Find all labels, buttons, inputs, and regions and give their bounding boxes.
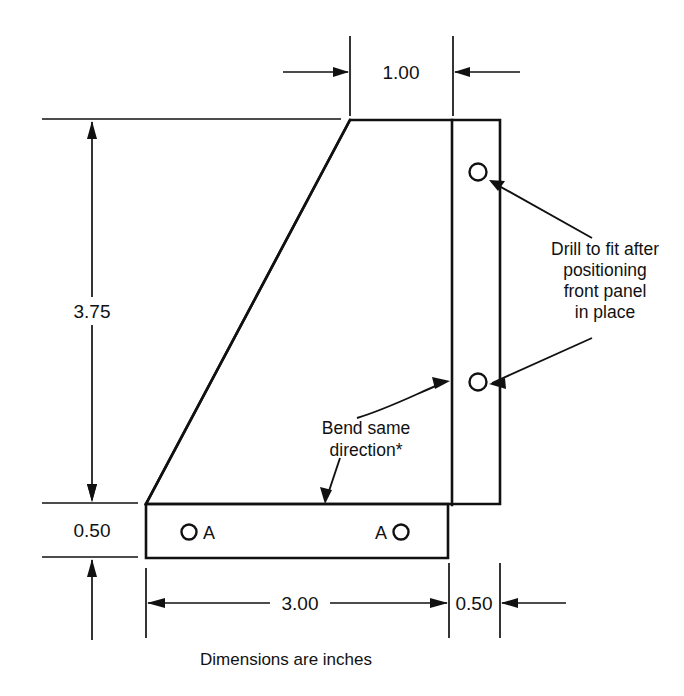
dimension-base-width: 3.00: [146, 563, 500, 638]
arrow-head-base-right: [430, 598, 448, 608]
right-panel-hole-lower: [470, 374, 487, 391]
arrow-head-right-flange: [501, 598, 518, 608]
bracket-drawing-svg: A A 1.00 3.75: [0, 0, 684, 696]
drill-note-line-4: in place: [575, 302, 635, 322]
base-hole-left: [182, 525, 197, 540]
arrow-head-top-right: [454, 67, 470, 77]
drawing-caption: Dimensions are inches: [200, 650, 372, 669]
bend-note-line-2: direction*: [330, 440, 403, 460]
arrow-head-flange-top: [87, 484, 97, 502]
arrow-head-top-left: [333, 67, 349, 77]
dimension-left-height: 3.75: [42, 119, 341, 503]
part-body-outline: [146, 120, 500, 504]
arrow-head-flange-bottom: [87, 559, 97, 577]
arrow-head-base-left: [147, 598, 165, 608]
base-hole-right-label: A: [375, 523, 387, 543]
drill-note-leader-upper: [492, 182, 592, 238]
bend-note-leader-curved: [357, 383, 443, 418]
arrow-head-drill-upper: [489, 180, 505, 191]
drill-note-leader-lower: [492, 338, 592, 383]
dimension-top-width: 1.00: [283, 36, 520, 116]
right-panel-hole-upper: [470, 164, 487, 181]
base-hole-left-label: A: [203, 523, 215, 543]
dim-label-base-width: 3.00: [282, 593, 319, 614]
arrow-head-height-top: [87, 121, 97, 139]
drill-note-line-1: Drill to fit after: [551, 239, 659, 259]
drill-note-line-2: positioning: [563, 260, 647, 280]
dim-label-top-width: 1.00: [383, 62, 420, 83]
dim-label-right-flange-width: 0.50: [456, 593, 493, 614]
technical-drawing-canvas: A A 1.00 3.75: [0, 0, 684, 696]
arrow-head-bend-curved: [432, 377, 450, 389]
dimension-right-flange-width: 0.50: [456, 593, 566, 614]
bend-note-line-1: Bend same: [322, 418, 411, 438]
base-hole-right: [394, 525, 409, 540]
dim-label-bottom-flange-height: 0.50: [74, 520, 111, 541]
slanted-left-edge: [146, 120, 350, 504]
dim-label-left-height: 3.75: [74, 301, 111, 322]
drill-note-line-3: front panel: [564, 281, 647, 301]
dimension-bottom-flange-height: 0.50: [42, 484, 138, 640]
drill-note-group: Drill to fit after positioning front pan…: [489, 180, 659, 389]
bend-note-group: Bend same direction*: [320, 377, 450, 504]
